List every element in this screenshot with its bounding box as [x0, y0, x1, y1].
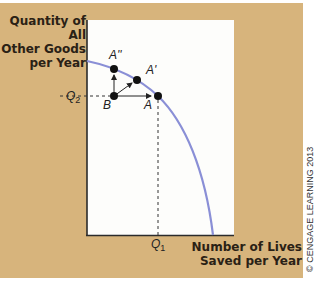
ppf-curve [87, 61, 213, 235]
label-a-double-prime: A'' [108, 48, 122, 62]
point-a [154, 92, 162, 100]
tick-label-q1: Q1 [151, 237, 165, 253]
label-b: B [103, 98, 111, 112]
label-a-prime: A' [145, 63, 157, 77]
point-a-double-prime [110, 65, 118, 73]
tick-label-q2: Q2 [66, 89, 80, 105]
point-a-prime [133, 76, 141, 84]
point-b [110, 92, 118, 100]
ppf-graph: A'' A' A B Q2 Q1 [0, 0, 326, 293]
label-a: A [143, 98, 152, 112]
